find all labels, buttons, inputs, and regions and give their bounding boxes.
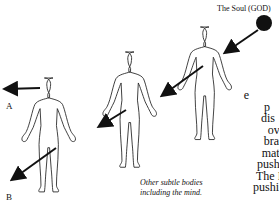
soul-circle (256, 15, 272, 31)
side-line: pushin (253, 182, 279, 194)
side-line: e (244, 90, 249, 102)
label-b: B (6, 192, 12, 202)
figure-middle (103, 52, 157, 167)
caption-line-2: including the mind. (140, 188, 203, 198)
arrow-right-to-middle (163, 66, 203, 95)
caption-line-1: Other subtle bodies (140, 178, 203, 188)
figure-left (22, 78, 76, 192)
label-a: A (6, 101, 13, 111)
arrow-b (13, 148, 56, 179)
caption: Other subtle bodies including the mind. (140, 178, 203, 198)
soul-label: The Soul (GOD) (217, 4, 271, 13)
arrow-a (6, 88, 40, 89)
side-text: e p dis ove bran mate pushe The L pushin (240, 90, 246, 205)
figure-right (178, 27, 232, 140)
soul-arrow (226, 30, 258, 52)
arrow-middle-to-left (100, 110, 126, 126)
